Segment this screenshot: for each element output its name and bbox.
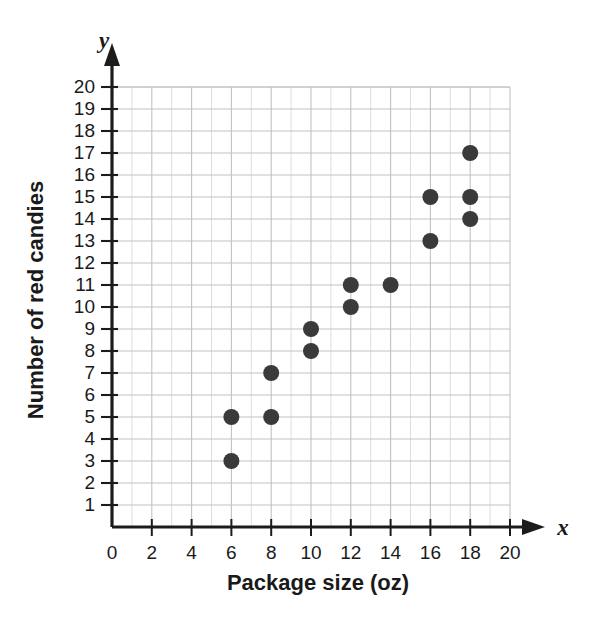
y-tick-label: 9 (84, 318, 95, 339)
x-tick-label: 18 (460, 542, 481, 563)
y-tick-label: 16 (74, 164, 95, 185)
y-axis-variable-label: y (96, 28, 110, 53)
x-tick-label: 6 (226, 542, 237, 563)
x-axis-variable-label: x (556, 515, 569, 540)
y-tick-label: 20 (74, 76, 95, 97)
y-tick-label: 12 (74, 252, 95, 273)
x-tick-label: 8 (266, 542, 277, 563)
data-point (263, 409, 279, 425)
y-tick-label: 11 (75, 274, 95, 295)
data-point (462, 145, 478, 161)
y-tick-label: 1 (84, 494, 95, 515)
y-tick-label: 5 (84, 406, 95, 427)
data-point (383, 277, 399, 293)
y-tick-label: 17 (74, 142, 95, 163)
x-tick-label: 0 (107, 542, 118, 563)
scatter-plot-figure: 1234567891011121314151617181920 02468101… (0, 0, 596, 625)
y-tick-label: 3 (84, 450, 95, 471)
x-tick-label: 2 (147, 542, 158, 563)
data-point (343, 299, 359, 315)
y-tick-label: 6 (84, 384, 95, 405)
gridlines (112, 87, 510, 527)
data-point (462, 189, 478, 205)
x-axis-title: Package size (oz) (227, 570, 409, 595)
x-tick-label: 20 (499, 542, 520, 563)
y-tick-label: 7 (84, 362, 95, 383)
data-point (303, 321, 319, 337)
y-tick-label: 13 (74, 230, 95, 251)
y-tick-label: 18 (74, 120, 95, 141)
y-tick-label: 15 (74, 186, 95, 207)
data-point (263, 365, 279, 381)
data-point (303, 343, 319, 359)
data-point (462, 211, 478, 227)
y-tick-label: 10 (74, 296, 95, 317)
y-tick-label: 2 (84, 472, 95, 493)
data-point (223, 453, 239, 469)
x-tick-label: 14 (380, 542, 402, 563)
y-tick-label: 8 (84, 340, 95, 361)
x-tick-label: 4 (186, 542, 197, 563)
data-point (223, 409, 239, 425)
y-axis-title: Number of red candies (23, 181, 48, 419)
y-tick-label: 4 (84, 428, 95, 449)
data-point (422, 189, 438, 205)
data-point (422, 233, 438, 249)
data-point (343, 277, 359, 293)
x-tick-label: 16 (420, 542, 441, 563)
x-tick-label: 10 (300, 542, 321, 563)
y-tick-label: 14 (74, 208, 96, 229)
y-tick-label: 19 (74, 98, 95, 119)
x-tick-label: 12 (340, 542, 361, 563)
scatter-plot-canvas: 1234567891011121314151617181920 02468101… (0, 0, 596, 625)
